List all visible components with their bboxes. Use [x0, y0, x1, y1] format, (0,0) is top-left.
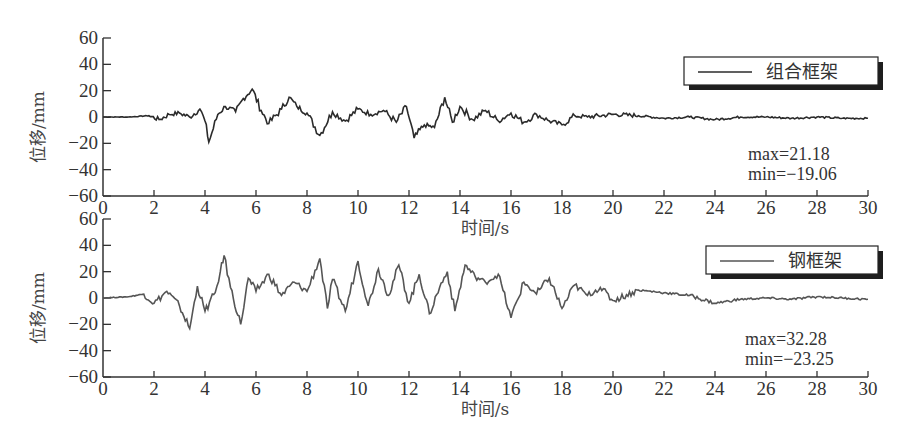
- y-axis-title: 位移/mm: [28, 272, 48, 344]
- x-axis-title: 时间/s: [461, 399, 509, 419]
- displacement-time-chart: 6040200−20−40−60024681012141618202224262…: [0, 0, 901, 448]
- x-tick-label: 2: [149, 197, 159, 218]
- y-tick-label: 20: [79, 80, 98, 101]
- y-tick-label: −40: [68, 159, 98, 180]
- max-value-annotation: max=32.28: [745, 329, 827, 349]
- y-tick-label: 0: [89, 106, 99, 127]
- x-axis-title: 时间/s: [461, 218, 509, 238]
- x-tick-label: 18: [553, 197, 572, 218]
- x-tick-label: 6: [251, 197, 261, 218]
- y-tick-label: −60: [68, 366, 98, 387]
- legend-composite-frame: 组合框架: [684, 57, 883, 90]
- legend-steel-frame: 钢框架: [706, 246, 883, 279]
- x-tick-label: 10: [349, 197, 368, 218]
- x-tick-label: 26: [757, 378, 776, 399]
- x-tick-label: 18: [553, 378, 572, 399]
- x-tick-label: 8: [302, 378, 312, 399]
- y-tick-label: −20: [68, 132, 98, 153]
- x-tick-label: 28: [808, 378, 827, 399]
- y-tick-label: −20: [68, 313, 98, 334]
- x-tick-label: 12: [400, 197, 419, 218]
- panel-steel-frame: 6040200−20−40−60024681012141618202224262…: [28, 208, 883, 419]
- x-tick-label: 12: [400, 378, 419, 399]
- x-tick-label: 26: [757, 197, 776, 218]
- legend-label: 钢框架: [788, 250, 842, 271]
- x-tick-label: 2: [149, 378, 159, 399]
- x-tick-label: 30: [859, 197, 878, 218]
- x-tick-label: 24: [706, 378, 726, 399]
- panel-composite-frame: 6040200−20−40−60024681012141618202224262…: [28, 27, 883, 238]
- max-value-annotation: max=21.18: [748, 144, 830, 164]
- x-tick-label: 30: [859, 378, 878, 399]
- x-tick-label: 20: [604, 197, 623, 218]
- y-tick-label: 60: [79, 208, 98, 229]
- series-line-composite-frame: [103, 89, 868, 142]
- y-tick-label: 40: [79, 53, 98, 74]
- y-tick-label: 60: [79, 27, 98, 48]
- x-tick-label: 14: [451, 378, 471, 399]
- y-axis-title: 位移/mm: [28, 91, 48, 163]
- x-tick-label: 6: [251, 378, 261, 399]
- x-tick-label: 0: [98, 197, 108, 218]
- x-tick-label: 14: [451, 197, 471, 218]
- x-tick-label: 10: [349, 378, 368, 399]
- legend-label: 组合框架: [766, 61, 838, 82]
- y-tick-label: −40: [68, 340, 98, 361]
- x-tick-label: 0: [98, 378, 108, 399]
- x-tick-label: 8: [302, 197, 312, 218]
- x-tick-label: 28: [808, 197, 827, 218]
- x-tick-label: 16: [502, 378, 521, 399]
- min-value-annotation: min=−19.06: [748, 164, 837, 184]
- y-tick-label: 40: [79, 234, 98, 255]
- y-tick-label: 20: [79, 261, 98, 282]
- y-tick-label: 0: [89, 287, 99, 308]
- x-tick-label: 24: [706, 197, 726, 218]
- y-tick-label: −60: [68, 185, 98, 206]
- x-tick-label: 16: [502, 197, 521, 218]
- x-tick-label: 4: [200, 378, 210, 399]
- x-tick-label: 4: [200, 197, 210, 218]
- axes-composite-frame: 6040200−20−40−60024681012141618202224262…: [68, 27, 877, 218]
- x-tick-label: 20: [604, 378, 623, 399]
- x-tick-label: 22: [655, 197, 674, 218]
- min-value-annotation: min=−23.25: [745, 349, 834, 369]
- x-tick-label: 22: [655, 378, 674, 399]
